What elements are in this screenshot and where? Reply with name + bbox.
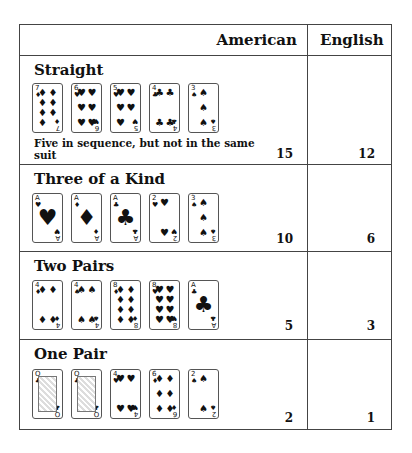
row-two-pairs: Two Pairs 4♦4♦♦♦♦♦4♠4♠♠♠♠♠8♦8♦♦♦♦♦♦♦♦♦8♥…	[20, 251, 391, 340]
suit-icon: ♦	[72, 207, 101, 229]
suit-pips: ♥♥	[155, 198, 174, 238]
header-american: American	[217, 31, 297, 49]
playing-card: 8♦8♦♦♦♦♦♦♦♦♦	[110, 280, 141, 330]
hand-title: One Pair	[34, 345, 107, 363]
suit-pips: ♦♦♦♦♦♦	[155, 374, 174, 414]
playing-card: 4♥4♥♥♥♥♥	[110, 369, 141, 419]
playing-card: A♣A♣♣	[110, 193, 141, 243]
suit-pips: ♠♠	[194, 374, 213, 414]
hand-title: Three of a Kind	[34, 170, 165, 188]
english-score: 12	[358, 147, 375, 161]
playing-card: A♣A♣♣	[188, 280, 219, 330]
american-score: 5	[285, 319, 293, 333]
suit-pips: ♠♠♠	[194, 198, 213, 238]
hand-title: Two Pairs	[34, 257, 114, 275]
playing-card: 5♥5♥♥♥♥♥♥	[110, 83, 141, 133]
card-group: Q♣Q♣Q♣Q♣4♥4♥♥♥♥♥6♦6♦♦♦♦♦♦♦2♠2♠♠♠	[32, 369, 219, 419]
playing-card: 3♠3♠♠♠♠	[188, 193, 219, 243]
playing-card: 7♦7♦♦♦♦♦♦♦♦	[32, 83, 63, 133]
hand-title: Straight	[34, 61, 103, 79]
playing-card: A♦A♦♦	[71, 193, 102, 243]
face-card-image	[77, 376, 96, 412]
card-group: A♥A♥♥A♦A♦♦A♣A♣♣2♥2♥♥♥3♠3♠♠♠♠	[32, 193, 219, 243]
suit-pips: ♥♥♥♥	[116, 374, 135, 414]
english-score: 1	[367, 411, 375, 425]
english-score: 6	[367, 232, 375, 246]
playing-card: 4♣4♣♣♣♣♣	[149, 83, 180, 133]
playing-card: 4♦4♦♦♦♦♦	[32, 280, 63, 330]
card-group: 4♦4♦♦♦♦♦4♠4♠♠♠♠♠8♦8♦♦♦♦♦♦♦♦♦8♥8♥♥♥♥♥♥♥♥♥…	[32, 280, 219, 330]
scoring-table: American English Straight 7♦7♦♦♦♦♦♦♦♦6♥6…	[19, 24, 392, 430]
suit-icon: ♣	[189, 294, 218, 316]
header-row: American English	[20, 25, 391, 56]
playing-card: 4♠4♠♠♠♠♠	[71, 280, 102, 330]
suit-pips: ♥♥♥♥♥	[116, 88, 135, 128]
row-straight: Straight 7♦7♦♦♦♦♦♦♦♦6♥6♥♥♥♥♥♥♥5♥5♥♥♥♥♥♥4…	[20, 55, 391, 165]
playing-card: 6♦6♦♦♦♦♦♦♦	[149, 369, 180, 419]
row-three-of-a-kind: Three of a Kind A♥A♥♥A♦A♦♦A♣A♣♣2♥2♥♥♥3♠3…	[20, 164, 391, 252]
american-score: 2	[285, 411, 293, 425]
header-english: English	[320, 31, 384, 49]
suit-pips: ♠♠♠♠	[77, 285, 96, 325]
american-score: 15	[276, 147, 293, 161]
card-group: 7♦7♦♦♦♦♦♦♦♦6♥6♥♥♥♥♥♥♥5♥5♥♥♥♥♥♥4♣4♣♣♣♣♣3♠…	[32, 83, 219, 133]
playing-card: 3♠3♠♠♠♠	[188, 83, 219, 133]
playing-card: 2♠2♠♠♠	[188, 369, 219, 419]
suit-pips: ♦♦♦♦♦♦♦♦	[116, 285, 135, 325]
playing-card: A♥A♥♥	[32, 193, 63, 243]
playing-card: Q♣Q♣	[71, 369, 102, 419]
suit-pips: ♥♥♥♥♥♥	[77, 88, 96, 128]
hand-description: Five in sequence, but not in the same su…	[34, 137, 264, 161]
suit-pips: ♦♦♦♦	[38, 285, 57, 325]
english-score: 3	[367, 319, 375, 333]
playing-card: 6♥6♥♥♥♥♥♥♥	[71, 83, 102, 133]
row-one-pair: One Pair Q♣Q♣Q♣Q♣4♥4♥♥♥♥♥6♦6♦♦♦♦♦♦♦2♠2♠♠…	[20, 339, 391, 429]
playing-card: 8♥8♥♥♥♥♥♥♥♥♥	[149, 280, 180, 330]
suit-icon: ♥	[33, 207, 62, 229]
suit-pips: ♠♠♠	[194, 88, 213, 128]
playing-card: 2♥2♥♥♥	[149, 193, 180, 243]
american-score: 10	[276, 232, 293, 246]
suit-pips: ♣♣♣♣	[155, 88, 174, 128]
suit-pips: ♥♥♥♥♥♥♥♥	[155, 285, 174, 325]
face-card-image	[38, 376, 57, 412]
suit-pips: ♦♦♦♦♦♦♦	[38, 88, 57, 128]
playing-card: Q♣Q♣	[32, 369, 63, 419]
suit-icon: ♣	[111, 207, 140, 229]
